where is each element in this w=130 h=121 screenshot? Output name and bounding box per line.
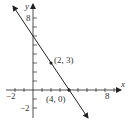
y-ticks xyxy=(33,18,37,108)
coordinate-plane: x y −2 8 8 −2 (2, 3) (4, 0) xyxy=(0,0,130,121)
point-label-2-3: (2, 3) xyxy=(54,55,74,65)
y-axis-label: y xyxy=(24,1,29,11)
y-tick-label-neg2: −2 xyxy=(20,103,30,113)
x-tick-label-neg2: −2 xyxy=(6,91,16,101)
point-label-4-0: (4, 0) xyxy=(46,94,66,104)
graph-line xyxy=(33,36,88,118)
x-axis-label: x xyxy=(120,79,125,89)
y-tick-label-8: 8 xyxy=(26,13,31,23)
x-tick-label-8: 8 xyxy=(105,91,110,101)
point-2-3 xyxy=(49,61,52,64)
point-4-0 xyxy=(67,88,70,91)
